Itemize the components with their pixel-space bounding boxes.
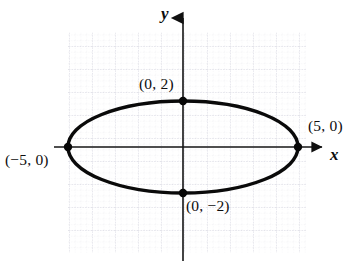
point-right: [294, 143, 302, 151]
point-label-top: (0, 2): [139, 76, 174, 92]
ellipse-graph-figure: (0, 2) (5, 0) (−5, 0) (0, −2) y x: [0, 0, 362, 261]
point-left: [64, 143, 72, 151]
y-axis-label: y: [161, 5, 169, 22]
point-label-right: (5, 0): [308, 118, 343, 134]
point-bottom: [179, 189, 187, 197]
x-axis-label: x: [330, 146, 339, 163]
point-label-bottom: (0, −2): [186, 198, 230, 214]
grid: [68, 33, 306, 253]
point-top: [179, 97, 187, 105]
point-label-left: (−5, 0): [5, 152, 49, 168]
